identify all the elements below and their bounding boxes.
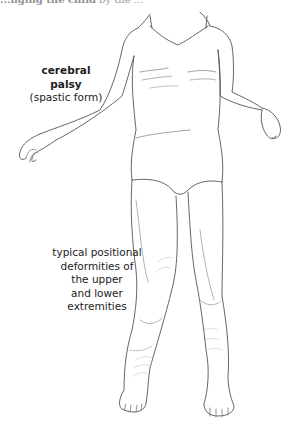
condition-line-1: cerebral xyxy=(26,64,106,78)
right-leg xyxy=(188,182,234,417)
description-line: and lower xyxy=(44,287,150,301)
deformity-description: typical positional deformities of the up… xyxy=(44,246,150,314)
condition-line-2: palsy xyxy=(26,78,106,92)
condition-subtitle: (spastic form) xyxy=(30,91,103,103)
description-line: extremities xyxy=(44,300,150,314)
description-line: typical positional xyxy=(44,246,150,260)
description-line: deformities of xyxy=(44,260,150,274)
torso-outline xyxy=(131,12,223,194)
condition-label: cerebral palsy (spastic form) xyxy=(26,64,106,105)
description-line: the upper xyxy=(44,273,150,287)
